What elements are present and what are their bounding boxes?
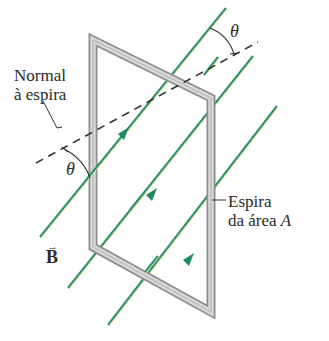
field-line-1: [40, 8, 226, 237]
normal-label: Normal à espira: [14, 66, 66, 104]
loop-label: Espira da área A: [228, 192, 291, 230]
arrowhead-icon: [183, 253, 194, 266]
normal-label-line1: Normal: [14, 66, 66, 85]
vector-arrow-icon: →: [47, 240, 58, 252]
loop-label-line2: da área A: [228, 211, 291, 230]
magnetic-flux-diagram: [0, 0, 329, 341]
normal-label-line2: à espira: [14, 85, 66, 104]
loop-area-variable: A: [281, 211, 291, 230]
normal-dashed-line: [36, 42, 258, 163]
theta-label-top: θ: [230, 22, 239, 41]
loop-label-prefix: da área: [228, 211, 281, 230]
normal-label-pointer: [43, 101, 57, 128]
loop-of-area-A: [93, 40, 211, 312]
loop-label-line1: Espira: [228, 192, 291, 211]
theta-label-bottom: θ: [66, 160, 75, 179]
magnetic-field-label: → B: [46, 247, 58, 268]
field-arrowheads: [118, 127, 194, 266]
